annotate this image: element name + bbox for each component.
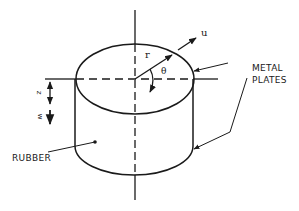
u-label: u	[201, 28, 207, 38]
rubber-point	[93, 140, 97, 144]
metal-plate-leader-bottom	[194, 78, 247, 149]
theta-arc-arrow	[150, 69, 153, 92]
u-arrow	[178, 38, 196, 50]
z-label: z	[35, 91, 42, 95]
cylinder-diagram	[0, 0, 299, 211]
rubber-label: RUBBER	[12, 154, 51, 163]
metal-plates-label-line2: PLATES	[252, 76, 287, 85]
metal-plate-leader-top	[194, 63, 228, 71]
radius-arrow	[135, 55, 172, 79]
w-label: w	[36, 114, 43, 120]
rubber-leader	[48, 142, 95, 152]
r-label: r	[145, 50, 150, 60]
theta-label: θ	[161, 67, 166, 76]
metal-plates-label-line1: METAL	[252, 64, 283, 73]
bottom-plate-arc	[75, 146, 193, 175]
